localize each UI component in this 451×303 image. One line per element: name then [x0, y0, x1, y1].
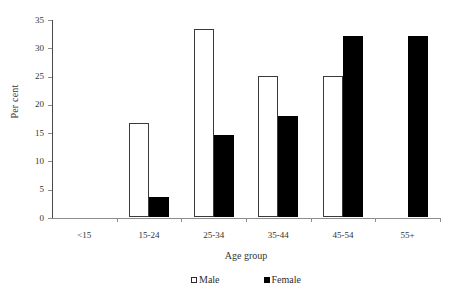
x-axis-tick-mark: [311, 218, 312, 222]
x-axis-tick-mark: [440, 218, 441, 222]
x-axis-tick-label: 35-44: [246, 230, 311, 240]
y-axis-tick-mark: [48, 20, 52, 21]
x-axis-tick-mark: [246, 218, 247, 222]
legend-label-female: Female: [272, 274, 301, 285]
y-axis-tick-mark: [48, 77, 52, 78]
bar-female-25-34: [214, 135, 234, 217]
bar-chart: Per cent 05101520253035 <1515-2425-3435-…: [0, 0, 451, 303]
legend-item-female: Female: [264, 274, 301, 285]
plot-area: 05101520253035 <1515-2425-3435-4445-5455…: [52, 20, 440, 218]
y-axis-tick-label: 0: [14, 214, 44, 223]
y-axis-tick-mark: [48, 161, 52, 162]
legend-swatch-female-icon: [264, 277, 270, 283]
x-axis-tick-label: 15-24: [117, 230, 182, 240]
y-axis-tick-label: 10: [14, 157, 44, 166]
bar-male-15-24: [129, 123, 149, 217]
legend-item-male: Male: [191, 274, 220, 285]
bar-female-55+: [408, 36, 428, 217]
y-axis-tick-mark: [48, 133, 52, 134]
chart-legend: Male Female: [52, 274, 440, 285]
bar-female-15-24: [149, 197, 169, 217]
y-axis-line: [52, 20, 53, 219]
y-axis-tick-label: 35: [14, 16, 44, 25]
y-axis-tick-mark: [48, 48, 52, 49]
x-axis-tick-mark: [375, 218, 376, 222]
x-axis-tick-label: 45-54: [311, 230, 376, 240]
bar-female-35-44: [278, 116, 298, 217]
y-axis-tick-mark: [48, 190, 52, 191]
y-axis-tick-mark: [48, 218, 52, 219]
x-axis-tick-label: 55+: [375, 230, 440, 240]
bar-male-35-44: [258, 76, 278, 217]
x-axis-tick-label: 25-34: [181, 230, 246, 240]
y-axis-tick-label: 15: [14, 129, 44, 138]
y-axis-tick-label: 5: [14, 185, 44, 194]
x-axis-title: Age group: [52, 250, 440, 261]
y-axis-tick-mark: [48, 105, 52, 106]
bar-male-45-54: [323, 76, 343, 217]
x-axis-tick-label: <15: [52, 230, 117, 240]
x-axis-tick-mark: [117, 218, 118, 222]
legend-label-male: Male: [199, 274, 220, 285]
legend-swatch-male-icon: [191, 277, 197, 283]
bar-male-25-34: [194, 29, 214, 217]
y-axis-tick-label: 30: [14, 44, 44, 53]
bar-female-45-54: [343, 36, 363, 217]
x-axis-tick-mark: [181, 218, 182, 222]
y-axis-tick-label: 20: [14, 100, 44, 109]
y-axis-tick-label: 25: [14, 72, 44, 81]
